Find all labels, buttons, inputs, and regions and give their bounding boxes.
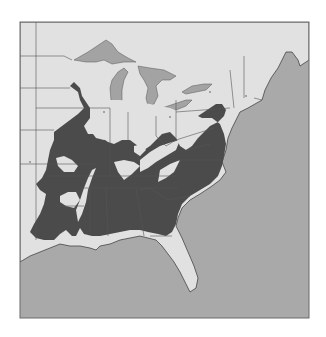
range-map — [0, 0, 326, 337]
